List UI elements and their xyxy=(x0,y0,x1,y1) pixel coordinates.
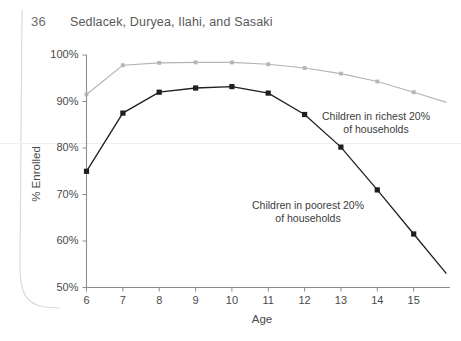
series-marker xyxy=(411,231,416,236)
x-tick-label: 14 xyxy=(364,294,390,306)
x-tick-label: 12 xyxy=(292,294,318,306)
y-tick-label: 90% xyxy=(35,95,79,107)
annotation-richest-line1: Children in richest 20% xyxy=(316,110,436,123)
annotation-poorest-line1: Children in poorest 20% xyxy=(246,199,370,212)
y-tick-label: 50% xyxy=(35,281,79,293)
x-tick-label: 8 xyxy=(146,294,172,306)
y-tick-label: 100% xyxy=(35,48,79,60)
series-marker xyxy=(121,63,125,67)
x-tick-label: 6 xyxy=(74,294,100,306)
series-marker xyxy=(157,61,161,65)
series-marker xyxy=(412,90,416,94)
x-tick-label: 10 xyxy=(219,294,245,306)
series-marker xyxy=(230,61,234,65)
series-marker xyxy=(339,72,343,76)
x-tick-label: 11 xyxy=(255,294,281,306)
series-marker xyxy=(266,62,270,66)
series-marker xyxy=(302,112,307,117)
series-marker xyxy=(85,93,89,97)
x-tick-label: 15 xyxy=(401,294,427,306)
x-axis-title: Age xyxy=(232,313,292,325)
series-marker xyxy=(338,145,343,150)
series-marker xyxy=(303,66,307,70)
x-axis-ticks xyxy=(87,288,414,292)
chart-series-group xyxy=(84,61,447,274)
series-marker xyxy=(375,80,379,84)
x-tick-label: 9 xyxy=(183,294,209,306)
series-marker xyxy=(375,187,380,192)
y-tick-label: 60% xyxy=(35,234,79,246)
annotation-poorest-line2: of households xyxy=(246,212,370,225)
x-tick-label: 13 xyxy=(328,294,354,306)
series-marker xyxy=(266,91,271,96)
annotation-poorest: Children in poorest 20% of households xyxy=(246,199,370,225)
x-tick-label: 7 xyxy=(110,294,136,306)
series-marker xyxy=(84,169,89,174)
y-tick-label: 70% xyxy=(35,188,79,200)
series-marker xyxy=(193,85,198,90)
annotation-richest: Children in richest 20% of households xyxy=(316,110,436,136)
series-marker xyxy=(120,111,125,116)
chart-axes xyxy=(83,55,451,292)
series-marker xyxy=(157,90,162,95)
y-tick-label: 80% xyxy=(35,141,79,153)
series-marker xyxy=(194,61,198,65)
series-marker xyxy=(229,84,234,89)
annotation-richest-line2: of households xyxy=(316,123,436,136)
enrollment-line-chart: % Enrolled Age 50%60%70%80%90%100%678910… xyxy=(0,0,461,341)
series-line xyxy=(87,62,447,102)
